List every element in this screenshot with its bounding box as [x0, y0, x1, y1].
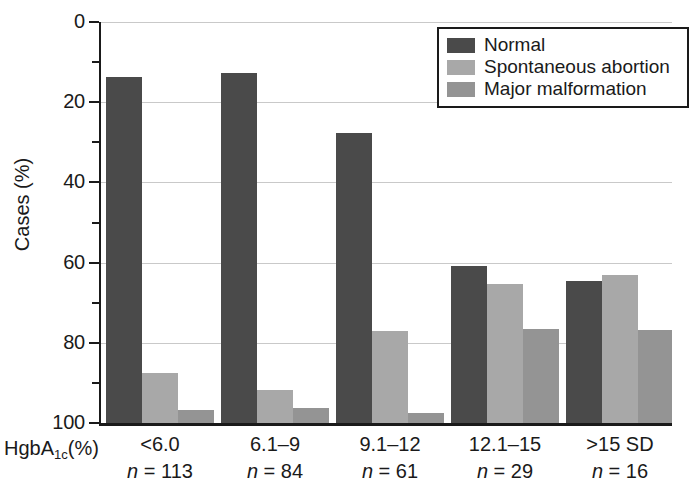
- legend-label: Major malformation: [484, 79, 647, 99]
- y-tick-label: 40: [0, 171, 85, 191]
- bar: [293, 408, 329, 423]
- legend-item: Spontaneous abortion: [447, 56, 681, 78]
- bar: [106, 77, 142, 423]
- y-tick-minor: [92, 302, 99, 304]
- legend-label: Spontaneous abortion: [484, 57, 670, 77]
- y-tick-major: [89, 21, 99, 23]
- x-group-label: >15 SDn = 16: [550, 433, 690, 482]
- bar: [566, 281, 602, 423]
- x-axis-line: [99, 423, 672, 426]
- bar: [451, 266, 487, 423]
- legend-swatch: [447, 60, 475, 75]
- legend-item: Major malformation: [447, 78, 681, 100]
- bar: [178, 410, 214, 423]
- y-tick-major: [89, 422, 99, 424]
- x-axis-title-subscript: 1c: [54, 447, 68, 462]
- y-tick-minor: [92, 222, 99, 224]
- y-tick-label: 60: [0, 252, 85, 272]
- bar: [602, 275, 638, 423]
- x-group-count: n = 16: [550, 460, 690, 482]
- y-tick-major: [89, 101, 99, 103]
- gridline: [101, 22, 672, 23]
- legend-swatch: [447, 82, 475, 97]
- legend-label: Normal: [484, 35, 545, 55]
- x-group-range: >15 SD: [550, 433, 690, 456]
- bar: [142, 373, 178, 423]
- bar: [336, 133, 372, 423]
- gridline: [101, 263, 672, 264]
- bar: [523, 329, 559, 423]
- y-tick-minor: [92, 61, 99, 63]
- y-tick-major: [89, 262, 99, 264]
- legend-item: Normal: [447, 34, 681, 56]
- y-tick-minor: [92, 382, 99, 384]
- legend: NormalSpontaneous abortionMajor malforma…: [437, 27, 689, 108]
- y-tick-major: [89, 342, 99, 344]
- gridline: [101, 182, 672, 183]
- y-tick-minor: [92, 141, 99, 143]
- x-axis-title-main: HgbA: [4, 437, 54, 459]
- y-tick-label: 0: [0, 11, 85, 31]
- bar: [257, 390, 293, 423]
- y-tick-major: [89, 181, 99, 183]
- bar: [221, 73, 257, 423]
- bar: [408, 413, 444, 423]
- bar: [638, 330, 672, 423]
- legend-swatch: [447, 38, 475, 53]
- y-tick-label: 20: [0, 91, 85, 111]
- bar: [487, 284, 523, 423]
- bar: [372, 331, 408, 423]
- x-axis-title: HgbA1c(%): [4, 437, 99, 460]
- y-tick-label: 100: [0, 412, 85, 432]
- y-tick-label: 80: [0, 332, 85, 352]
